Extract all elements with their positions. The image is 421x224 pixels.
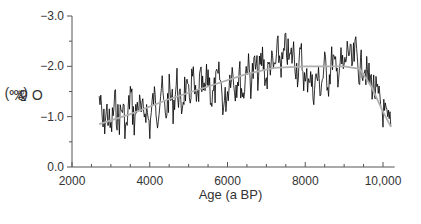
- x-tick-label: 10,000: [365, 174, 402, 188]
- x-tick-label: 4000: [136, 174, 163, 188]
- smoothed-series-line: [99, 66, 391, 126]
- axes: [67, 16, 395, 167]
- raw-series-line: [99, 33, 391, 139]
- y-tick-label: −3.0: [40, 9, 64, 23]
- x-tick-label: 2000: [59, 174, 86, 188]
- y-tick-label: 0.0: [47, 160, 64, 174]
- x-axis-label: Age (a BP): [0, 187, 421, 202]
- y-axis-label: δ18O (‰): [4, 55, 44, 135]
- x-tick-label: 6000: [214, 174, 241, 188]
- tick-labels: 200040006000800010,0000.0−1.0−2.0−3.0: [40, 9, 401, 188]
- x-tick-label: 8000: [292, 174, 319, 188]
